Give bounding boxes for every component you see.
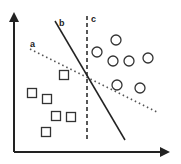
circle-point bbox=[112, 80, 122, 90]
circle-point bbox=[124, 56, 134, 66]
diagram-svg: abc bbox=[0, 0, 181, 164]
circle-point bbox=[135, 83, 145, 93]
circle-point bbox=[92, 47, 102, 57]
boundary-line-a bbox=[30, 49, 157, 112]
circle-point bbox=[108, 56, 118, 66]
class-squares bbox=[28, 71, 76, 137]
line-label-b: b bbox=[59, 18, 65, 28]
square-point bbox=[52, 112, 61, 121]
square-point bbox=[42, 128, 51, 137]
square-point bbox=[43, 95, 52, 104]
circle-point bbox=[111, 35, 121, 45]
square-point bbox=[28, 89, 37, 98]
square-point bbox=[67, 113, 76, 122]
line-label-c: c bbox=[91, 14, 96, 24]
line-label-a: a bbox=[30, 39, 36, 49]
classifier-diagram: abc bbox=[0, 0, 181, 164]
circle-point bbox=[143, 53, 153, 63]
class-circles bbox=[92, 35, 153, 93]
square-point bbox=[60, 71, 69, 80]
decision-boundaries: abc bbox=[30, 14, 157, 142]
